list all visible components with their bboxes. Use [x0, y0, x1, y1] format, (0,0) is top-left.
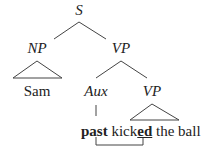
- node-vp-lower: VP: [143, 84, 161, 99]
- edge-s-np: [54, 22, 79, 39]
- edge-vp-vp: [121, 61, 147, 78]
- edge-vp-aux: [96, 61, 121, 78]
- node-np: NP: [27, 41, 46, 56]
- verb-suffix: ed: [137, 123, 152, 139]
- verb-stem: kick: [111, 123, 137, 139]
- node-s: S: [75, 3, 83, 18]
- np-triangle: [13, 61, 62, 78]
- leaf-sam: Sam: [24, 84, 51, 99]
- node-aux: Aux: [84, 84, 107, 99]
- sentence: past kicked the ball: [81, 124, 201, 139]
- vp-triangle: [130, 104, 179, 120]
- object-phrase: the ball: [156, 123, 201, 139]
- edge-s-vp: [79, 22, 106, 39]
- node-vp: VP: [112, 41, 130, 56]
- tense-past: past: [81, 123, 108, 139]
